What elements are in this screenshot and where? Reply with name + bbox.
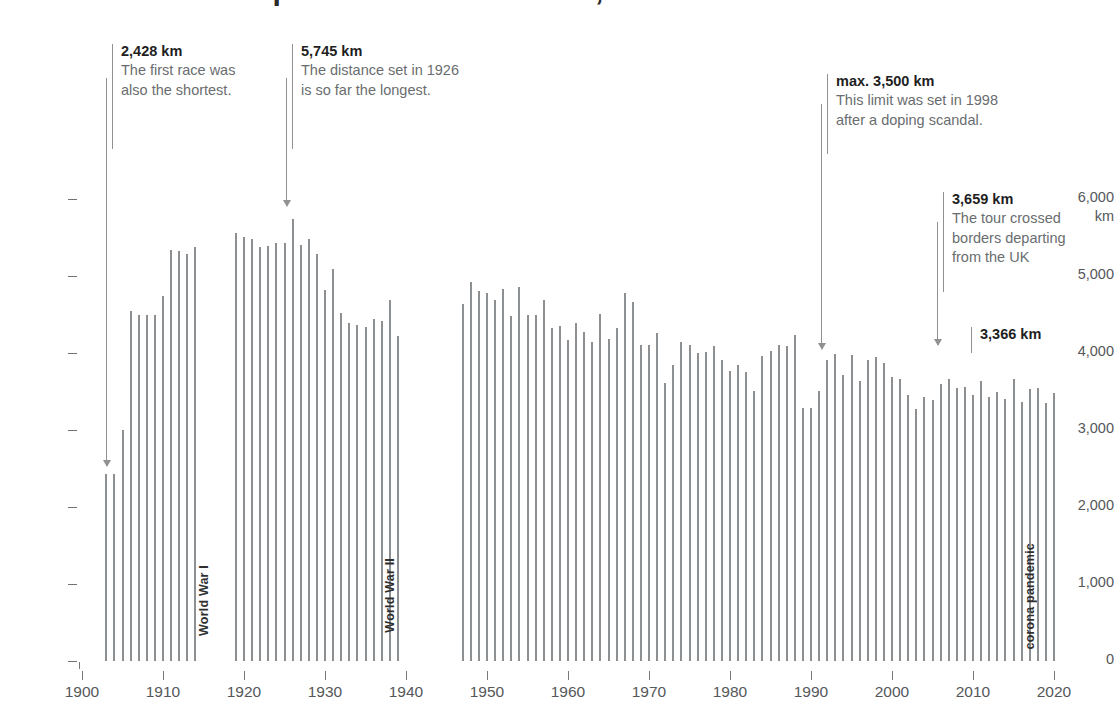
x-tick-label: 2020 [1024,683,1084,701]
annotation-uk-start: 3,659 kmThe tour crossedborders departin… [943,190,1066,268]
annotation-line: is so far the longest. [301,81,459,101]
bar [510,316,512,661]
bar [672,365,674,661]
bar [567,340,569,661]
bar [996,392,998,661]
bar [842,375,844,661]
annotation-headline: 2,428 km [121,42,235,61]
bar [656,333,658,661]
bar [745,372,747,661]
x-tick-mark [811,671,812,680]
bar [535,315,537,661]
x-tick-label: 1950 [457,683,517,701]
annotation-recent-distance: 3,366 km [971,325,1041,344]
annotation-first-race: 2,428 kmThe first race wasalso the short… [112,42,235,100]
bar [478,291,480,661]
bar [891,377,893,661]
bar [964,387,966,661]
bar [292,219,294,661]
annotation-body: 3,659 kmThe tour crossedborders departin… [943,190,1066,268]
bar [753,391,755,661]
bar [786,346,788,661]
x-tick-label: 2000 [862,683,922,701]
bar [235,233,237,661]
era-label-world-war-1: World War I [197,565,211,636]
annotation-headline: max. 3,500 km [836,72,998,91]
bar [834,354,836,661]
annotation-line: The tour crossed [952,209,1066,229]
bar [583,332,585,661]
bar [988,397,990,661]
annotation-rule [943,192,944,292]
bar [300,245,302,661]
bar [591,342,593,661]
bar [356,325,358,661]
bar [972,395,974,661]
annotation-body: max. 3,500 kmThis limit was set in 1998a… [827,72,998,130]
annotation-arrow-first-race [106,78,107,466]
y-tick-mark [68,507,77,508]
bar [632,302,634,661]
bar [1045,403,1047,661]
bar [826,360,828,661]
bar [308,239,310,661]
bar [713,346,715,661]
bar [267,246,269,661]
annotation-rule [292,44,293,149]
bar [818,391,820,661]
bar [324,290,326,661]
bar [729,371,731,661]
annotation-rule [827,74,828,154]
x-tick-mark [406,671,407,680]
y-tick-label: 4,000 [1048,343,1114,359]
bar [502,289,504,661]
x-tick-mark [487,671,488,680]
bar [980,381,982,661]
annotation-line: from the UK [952,248,1066,268]
bar [122,430,124,661]
y-tick-mark [68,584,77,585]
bar [486,293,488,661]
bar [899,379,901,661]
x-tick-label: 1940 [376,683,436,701]
bar [130,311,132,661]
annotation-headline: 3,366 km [980,325,1041,344]
bar [575,323,577,661]
annotation-body: 2,428 kmThe first race wasalso the short… [112,42,235,100]
x-tick-mark [973,671,974,680]
bar [721,360,723,661]
y-tick-label: 3,000 [1048,420,1114,436]
y-tick-label: 2,000 [1048,497,1114,513]
y-tick-label: 0 [1048,651,1114,667]
bar [284,243,286,661]
bar [1053,393,1055,661]
bar [146,315,148,661]
bar [915,409,917,661]
annotation-body: 5,745 kmThe distance set in 1926is so fa… [292,42,459,100]
bar [761,356,763,661]
bar [875,357,877,661]
bar [373,319,375,661]
bar [170,250,172,661]
bar [470,282,472,661]
x-tick-mark [730,671,731,680]
bar [851,355,853,661]
x-tick-mark [325,671,326,680]
x-tick-label: 1900 [52,683,112,701]
bar [365,327,367,661]
x-tick-label: 2010 [943,683,1003,701]
annotation-line: also the shortest. [121,81,235,101]
bar [1013,379,1015,661]
chart-canvas: ever taken place over more than 4,000 km… [0,0,1114,717]
bar [259,247,261,661]
x-tick-label: 1970 [619,683,679,701]
x-tick-label: 1990 [781,683,841,701]
annotation-headline: 3,659 km [952,190,1066,209]
bar [648,345,650,661]
y-tick-mark [68,199,77,200]
bar [1004,399,1006,661]
page-title: ever taken place over more than 4,000 km [118,0,704,7]
bar [923,397,925,661]
bar [251,239,253,661]
bar [608,339,610,661]
